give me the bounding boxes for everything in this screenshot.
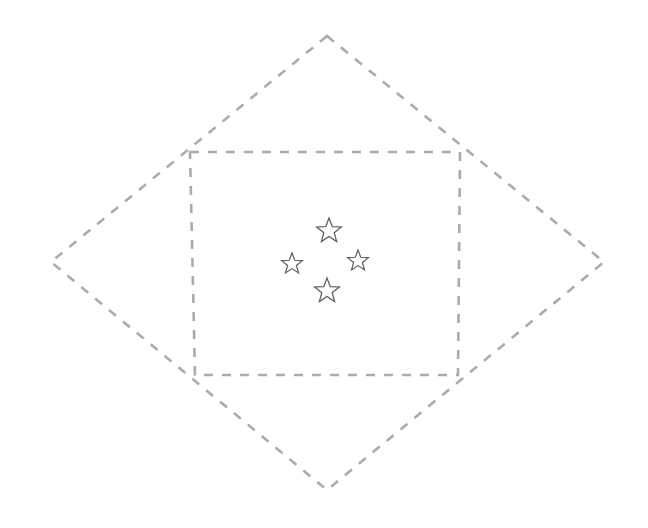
canvas-background — [0, 0, 648, 528]
diagram-container — [0, 0, 648, 528]
nested-diamond-figure — [0, 0, 648, 528]
